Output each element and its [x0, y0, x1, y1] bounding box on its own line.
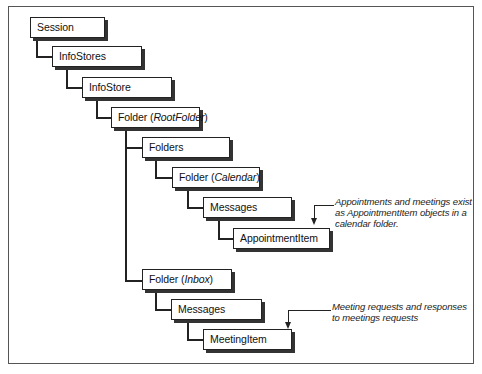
- node-label: Folder (: [118, 111, 153, 123]
- node-appointmentitem: AppointmentItem: [233, 228, 330, 249]
- connector: [187, 207, 203, 209]
- node-meetingitem: MeetingItem: [203, 329, 292, 350]
- connector: [155, 309, 171, 311]
- connector: [125, 147, 142, 149]
- connector: [36, 56, 52, 58]
- node-label-italic: Calendar: [214, 171, 256, 183]
- node-label: Messages: [178, 303, 225, 315]
- node-label: Session: [37, 21, 74, 33]
- node-label: InfoStores: [59, 50, 106, 62]
- node-label: ): [204, 111, 207, 123]
- connector: [125, 128, 127, 281]
- note-line: calendar folder.: [335, 218, 472, 229]
- node-label: AppointmentItem: [240, 232, 318, 244]
- node-infostore: InfoStore: [82, 77, 172, 98]
- node-folders: Folders: [142, 137, 230, 158]
- node-label-italic: RootFolder: [153, 111, 204, 123]
- annotation-line: [288, 310, 331, 311]
- note-line: as AppointmentItem objects in a: [335, 207, 472, 218]
- node-rootfolder: Folder (RootFolder): [111, 107, 200, 128]
- node-messages-inbox: Messages: [171, 299, 262, 320]
- node-label: Folders: [149, 141, 183, 153]
- annotation-line: [314, 205, 334, 206]
- node-session: Session: [30, 17, 105, 38]
- note-meeting: Meeting requests and responses to meetin…: [332, 301, 467, 323]
- connector: [96, 117, 111, 119]
- connector: [155, 291, 157, 310]
- arrow-down-icon: [311, 218, 317, 225]
- connector: [187, 320, 189, 340]
- note-line: Appointments and meetings exist: [335, 196, 472, 207]
- arrow-down-icon: [285, 322, 291, 329]
- node-infostores: InfoStores: [52, 46, 142, 67]
- connector: [218, 219, 220, 239]
- node-inbox-folder: Folder (Inbox): [142, 269, 232, 290]
- node-label-italic: Inbox: [184, 273, 209, 285]
- node-messages-calendar: Messages: [203, 197, 292, 218]
- annotation-line: [314, 205, 315, 219]
- connector: [96, 98, 98, 118]
- connector: [187, 189, 189, 208]
- node-label: ): [210, 273, 213, 285]
- node-label: ): [256, 171, 259, 183]
- connector: [218, 238, 233, 240]
- connector: [155, 177, 172, 179]
- connector: [155, 158, 157, 178]
- connector: [66, 87, 82, 89]
- node-label: Messages: [210, 201, 257, 213]
- node-calendar-folder: Folder (Calendar): [172, 167, 260, 188]
- connector: [36, 38, 38, 57]
- connector: [66, 67, 68, 88]
- node-label: Folder (: [149, 273, 184, 285]
- node-label: Folder (: [179, 171, 214, 183]
- node-label: MeetingItem: [210, 333, 267, 345]
- note-appointment: Appointments and meetings exist as Appoi…: [335, 196, 472, 229]
- note-line: Meeting requests and responses: [332, 301, 467, 312]
- connector: [125, 280, 142, 282]
- note-line: to meetings requests: [332, 312, 467, 323]
- node-label: InfoStore: [89, 81, 131, 93]
- connector: [187, 339, 203, 341]
